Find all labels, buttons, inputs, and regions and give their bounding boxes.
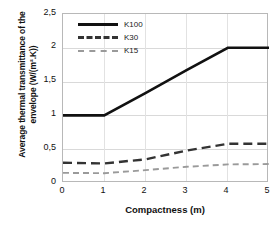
x-tick-label: 3	[173, 185, 197, 195]
legend-item-k100: K100	[78, 18, 143, 31]
y-tick-label: 2,5	[20, 7, 56, 17]
y-tick-label: 1,5	[20, 74, 56, 84]
x-tick-label: 0	[50, 185, 74, 195]
legend-item-k30: K30	[78, 31, 143, 44]
series-line-k100	[63, 48, 269, 116]
legend-swatch-k100	[78, 23, 118, 26]
y-tick-label: 2	[20, 40, 56, 50]
chart-legend: K100 K30 K15	[78, 18, 143, 57]
chart-figure: Average thermal transmittance of the env…	[0, 0, 277, 229]
legend-label-k15: K15	[124, 46, 138, 56]
legend-label-k100: K100	[124, 20, 143, 30]
x-tick-label: 5	[255, 185, 277, 195]
series-line-k15	[63, 164, 269, 173]
legend-swatch-k15	[78, 50, 118, 52]
x-tick-label: 4	[214, 185, 238, 195]
legend-label-k30: K30	[124, 33, 138, 43]
series-line-k30	[63, 144, 269, 164]
x-tick-label: 2	[132, 185, 156, 195]
y-tick-label: 0,5	[20, 142, 56, 152]
legend-item-k15: K15	[78, 44, 143, 57]
legend-swatch-k30	[78, 36, 118, 39]
y-tick-label: 1	[20, 108, 56, 118]
x-tick-label: 1	[91, 185, 115, 195]
x-axis-title: Compactness (m)	[62, 204, 268, 215]
